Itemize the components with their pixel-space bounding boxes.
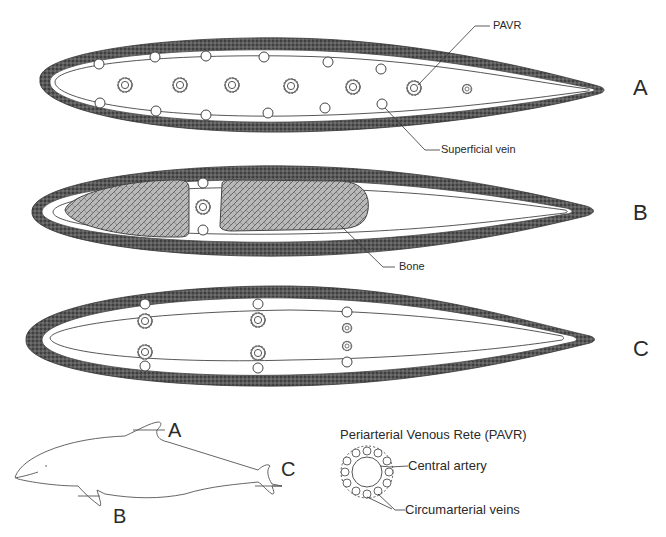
section-label-a: A [633, 75, 648, 101]
section-b-cross-section [32, 166, 594, 267]
callout-superficial-vein: Superficial vein [441, 143, 516, 155]
legend-central-artery: Central artery [408, 458, 487, 473]
callout-pavr: PAVR [493, 19, 521, 31]
legend-title: Periarterial Venous Rete (PAVR) [340, 427, 527, 442]
dolphin-label-a: A [168, 419, 181, 442]
legend-circumarterial-veins: Circumarterial veins [405, 502, 520, 517]
pavr-legend-diagram [341, 446, 408, 510]
section-label-c: C [633, 336, 649, 362]
bone-distal [220, 180, 368, 231]
section-c-cross-section [26, 286, 595, 386]
callout-bone: Bone [399, 260, 425, 272]
section-a-cross-section [40, 26, 604, 150]
section-label-b: B [633, 200, 648, 226]
dolphin-label-b: B [113, 505, 126, 528]
diagram-canvas [0, 0, 666, 537]
dolphin-label-c: C [281, 458, 295, 481]
dolphin-outline [15, 422, 282, 506]
